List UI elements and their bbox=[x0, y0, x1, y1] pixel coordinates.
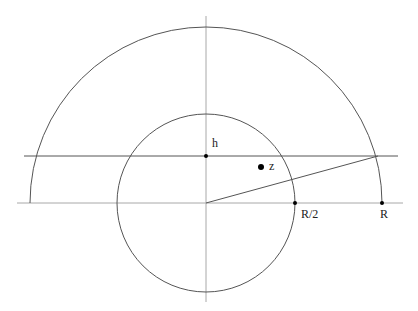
label-r-half: R/2 bbox=[301, 207, 318, 221]
diagram-canvas: h z R/2 R bbox=[0, 0, 418, 311]
point-h bbox=[204, 154, 208, 158]
radius-segment bbox=[206, 156, 378, 203]
point-r-half bbox=[293, 201, 297, 205]
geometry-diagram: h z R/2 R bbox=[0, 0, 418, 311]
label-z: z bbox=[269, 159, 274, 173]
point-z bbox=[258, 164, 264, 170]
label-r: R bbox=[380, 207, 388, 221]
label-h: h bbox=[212, 136, 218, 150]
point-r bbox=[380, 201, 384, 205]
